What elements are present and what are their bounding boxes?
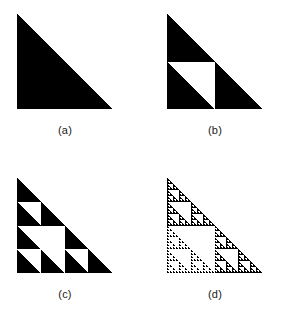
sierpinski-triangle-d	[167, 178, 262, 273]
panel-label-d: (d)	[150, 288, 280, 301]
panel-label-a: (a)	[0, 124, 130, 137]
sierpinski-triangle-c	[17, 178, 112, 273]
sierpinski-triangle-a	[17, 14, 112, 109]
figure-panel-d: (d)	[147, 164, 293, 327]
panel-label-c: (c)	[0, 288, 130, 301]
figure-panel-grid: (a) (b) (c) (d)	[0, 0, 293, 327]
figure-panel-c: (c)	[0, 164, 146, 327]
sierpinski-triangle-b	[167, 14, 262, 109]
figure-panel-a: (a)	[0, 0, 146, 163]
panel-label-b: (b)	[150, 124, 280, 137]
figure-panel-b: (b)	[147, 0, 293, 163]
